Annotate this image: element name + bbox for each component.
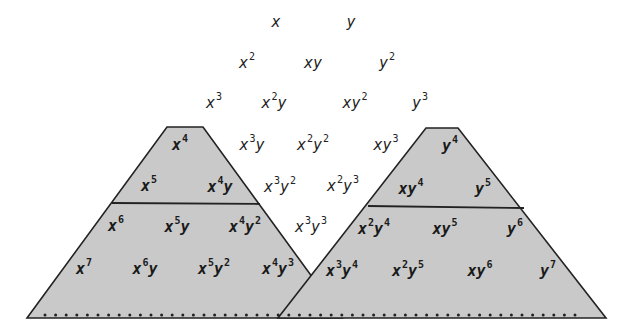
baseline-dot — [181, 314, 184, 317]
term-exponent: 4 — [418, 177, 424, 188]
term-exponent: 3 — [274, 175, 280, 186]
term-base: y — [346, 13, 355, 31]
baseline-dot — [340, 314, 343, 317]
baseline-dot — [54, 314, 57, 317]
baseline-dot — [383, 314, 386, 317]
baseline-dot — [203, 314, 206, 317]
term-exponent: 2 — [307, 133, 313, 144]
baseline-dot — [457, 314, 460, 317]
monomial-x2y5: x2y5 — [392, 262, 424, 279]
baseline-dot — [44, 314, 47, 317]
baseline-dot — [107, 314, 110, 317]
monomial-x4y: x4y — [207, 178, 232, 195]
trapezoid-shapes — [0, 0, 639, 332]
term-base: xy — [373, 136, 391, 154]
monomial-xy: xy — [304, 56, 322, 71]
term-tail-exponent: 3 — [288, 257, 294, 268]
term-tail: y — [149, 260, 158, 278]
monomial-xy5: xy5 — [432, 220, 457, 237]
term-tail: y — [374, 220, 383, 238]
monomial-x3: x3 — [206, 94, 222, 111]
baseline-dot — [97, 314, 100, 317]
term-tail-exponent: 2 — [290, 175, 296, 186]
term-tail: y — [214, 260, 223, 278]
term-tail-exponent: 2 — [255, 215, 261, 226]
baseline-dot — [510, 314, 513, 317]
monomial-x: x — [271, 15, 280, 30]
baseline-dot — [351, 314, 354, 317]
baseline-dot — [425, 314, 428, 317]
term-base: y — [442, 137, 451, 155]
term-base: x — [261, 94, 270, 112]
term-base: xy — [432, 220, 450, 238]
baseline-dot — [404, 314, 407, 317]
baseline-dot — [171, 314, 174, 317]
term-base: y — [412, 94, 421, 112]
monomial-y: y — [346, 15, 355, 30]
baseline-dot — [415, 314, 418, 317]
baseline-dot — [552, 314, 555, 317]
baseline-dot — [150, 314, 153, 317]
baseline-dot — [372, 314, 375, 317]
baseline-dot — [468, 314, 471, 317]
term-exponent: 5 — [151, 174, 157, 185]
monomial-xy3: xy3 — [373, 136, 398, 153]
baseline-dot — [309, 314, 312, 317]
term-exponent: 2 — [402, 259, 408, 270]
baseline-dot — [256, 314, 259, 317]
term-base: y — [379, 54, 388, 72]
monomial-x4y2: x4y2 — [229, 218, 261, 235]
monomial-x2y3: x2y3 — [327, 177, 359, 194]
term-base: x — [295, 218, 304, 236]
term-exponent: 3 — [336, 259, 342, 270]
term-base: xy — [398, 180, 416, 198]
baseline-dot — [277, 314, 280, 317]
term-exponent: 5 — [452, 217, 458, 228]
baseline-dot — [65, 314, 68, 317]
term-exponent: 3 — [305, 215, 311, 226]
term-base: x — [326, 262, 335, 280]
baseline-dot — [531, 314, 534, 317]
term-base: xy — [304, 54, 322, 72]
term-exponent: 3 — [249, 133, 255, 144]
monomial-y4: y4 — [442, 137, 458, 154]
term-exponent: 4 — [452, 134, 458, 145]
monomial-x5y: x5y — [164, 218, 189, 235]
term-tail: y — [224, 178, 233, 196]
monomial-x3y: x3y — [239, 136, 264, 153]
term-base: x — [207, 178, 216, 196]
monomial-xy4: xy4 — [398, 180, 423, 197]
baseline-dot — [521, 314, 524, 317]
baseline-dot — [330, 314, 333, 317]
term-base: x — [198, 260, 207, 278]
term-tail: y — [278, 94, 287, 112]
monomial-x3y3: x3y3 — [295, 218, 327, 235]
baseline-dot — [160, 314, 163, 317]
monomial-x5y2: x5y2 — [198, 260, 230, 277]
baseline-dot — [489, 314, 492, 317]
term-tail: y — [313, 136, 322, 154]
monomial-x2y4: x2y4 — [358, 220, 390, 237]
term-tail-exponent: 4 — [384, 217, 390, 228]
term-exponent: 6 — [487, 259, 493, 270]
term-tail-exponent: 3 — [321, 215, 327, 226]
baseline-dot — [499, 314, 502, 317]
term-exponent: 7 — [550, 259, 556, 270]
term-exponent: 4 — [239, 215, 245, 226]
monomial-x6: x6 — [108, 217, 124, 234]
term-exponent: 6 — [142, 257, 148, 268]
monomial-xy2: xy2 — [342, 94, 367, 111]
baseline-dot — [436, 314, 439, 317]
term-base: x — [229, 218, 238, 236]
left-divider-line — [112, 203, 260, 204]
term-tail: y — [256, 136, 265, 154]
baseline-dot — [139, 314, 142, 317]
monomial-x5: x5 — [141, 177, 157, 194]
monomial-y7: y7 — [540, 262, 556, 279]
baseline-dot — [362, 314, 365, 317]
term-exponent: 2 — [337, 174, 343, 185]
term-tail: y — [278, 260, 287, 278]
term-tail: y — [311, 218, 320, 236]
term-tail: y — [408, 262, 417, 280]
monomial-x4: x4 — [172, 136, 188, 153]
